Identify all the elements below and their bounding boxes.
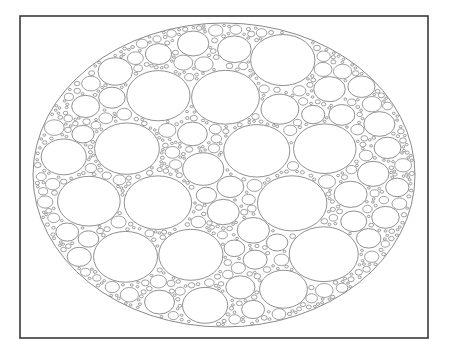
packed-ellipse — [378, 93, 384, 98]
packed-ellipse — [136, 285, 139, 287]
packed-ellipse — [339, 181, 342, 183]
packed-ellipse — [226, 63, 233, 68]
packed-ellipse — [192, 67, 195, 69]
packed-ellipse — [146, 170, 152, 175]
packed-ellipse — [232, 234, 235, 236]
packed-ellipse — [58, 176, 121, 226]
packed-ellipse — [63, 100, 66, 102]
packed-ellipse — [145, 230, 154, 237]
packed-ellipse — [128, 222, 133, 226]
packed-ellipse — [70, 177, 73, 179]
packed-ellipse — [342, 58, 345, 60]
packed-ellipse — [126, 182, 130, 186]
packed-ellipse — [58, 244, 61, 246]
packed-ellipse — [253, 120, 256, 122]
packed-ellipse — [368, 263, 371, 265]
packed-ellipse — [349, 286, 352, 288]
packed-ellipse — [227, 226, 233, 231]
packed-ellipse — [177, 33, 180, 35]
packed-ellipse — [242, 194, 255, 204]
packed-ellipse — [375, 89, 380, 93]
packed-ellipse — [392, 132, 396, 135]
packed-ellipse — [232, 223, 235, 225]
packed-ellipse — [165, 41, 170, 45]
packed-ellipse — [65, 135, 68, 137]
packed-ellipse — [158, 137, 161, 139]
packed-ellipse — [389, 229, 395, 234]
packed-ellipse — [293, 86, 306, 96]
packed-ellipse — [71, 242, 74, 245]
packed-ellipse — [161, 149, 164, 151]
packed-ellipse — [321, 102, 325, 106]
packed-ellipse — [216, 322, 220, 326]
packed-ellipse — [69, 125, 72, 127]
packed-ellipse — [317, 51, 330, 62]
packed-ellipse — [39, 188, 48, 195]
packed-ellipse — [409, 189, 413, 192]
packed-ellipse — [363, 266, 371, 272]
packed-ellipse — [399, 126, 402, 128]
packed-ellipse — [321, 219, 328, 224]
packing-figure-svg — [0, 0, 450, 355]
packed-ellipse — [193, 111, 196, 113]
packed-ellipse — [99, 87, 126, 108]
packed-ellipse — [361, 117, 364, 119]
packed-ellipse — [127, 48, 130, 50]
packed-ellipse — [64, 93, 73, 100]
packed-ellipse — [74, 118, 77, 120]
packed-ellipse — [220, 151, 223, 153]
packed-ellipse — [66, 244, 72, 248]
packed-ellipse — [248, 31, 255, 37]
packed-ellipse — [384, 230, 387, 232]
packed-ellipse — [406, 207, 409, 209]
packed-ellipse — [168, 311, 178, 319]
packed-ellipse — [378, 187, 381, 189]
packed-ellipse — [124, 176, 191, 230]
packed-ellipse — [122, 284, 125, 286]
packed-ellipse — [223, 129, 229, 134]
ellipse-packing-group — [33, 23, 415, 327]
packed-ellipse — [168, 232, 171, 234]
packed-ellipse — [141, 118, 144, 120]
packed-ellipse — [296, 170, 299, 172]
packed-ellipse — [134, 72, 138, 75]
packed-ellipse — [207, 199, 239, 224]
packed-ellipse — [160, 164, 163, 166]
packed-ellipse — [172, 56, 175, 58]
packed-ellipse — [154, 231, 157, 233]
packed-ellipse — [373, 93, 376, 95]
packed-ellipse — [247, 37, 250, 39]
packed-ellipse — [136, 306, 139, 308]
packed-ellipse — [243, 33, 246, 35]
packed-ellipse — [168, 138, 171, 140]
packed-ellipse — [60, 219, 63, 221]
packed-ellipse — [314, 62, 332, 76]
packed-ellipse — [224, 260, 232, 266]
packed-ellipse — [374, 263, 377, 266]
packed-ellipse — [360, 142, 366, 147]
packed-ellipse — [41, 139, 86, 175]
packed-ellipse — [247, 179, 262, 191]
packed-ellipse — [196, 283, 200, 286]
packed-ellipse — [332, 52, 335, 54]
packed-ellipse — [266, 123, 269, 125]
packed-ellipse — [97, 90, 100, 92]
packed-ellipse — [383, 102, 393, 110]
packed-ellipse — [294, 311, 297, 313]
packed-ellipse — [99, 113, 113, 124]
packed-ellipse — [389, 236, 394, 240]
packed-ellipse — [405, 151, 409, 154]
packed-ellipse — [87, 159, 90, 161]
packed-ellipse — [225, 126, 228, 128]
packed-ellipse — [186, 117, 190, 120]
packed-ellipse — [379, 196, 388, 203]
packed-ellipse — [224, 240, 245, 257]
packed-ellipse — [218, 282, 223, 286]
packed-ellipse — [219, 270, 222, 272]
packed-ellipse — [160, 67, 163, 69]
packed-ellipse — [298, 126, 301, 129]
packed-ellipse — [202, 212, 207, 216]
packed-ellipse — [94, 231, 158, 282]
packed-ellipse — [356, 140, 359, 142]
packed-ellipse — [221, 227, 225, 230]
